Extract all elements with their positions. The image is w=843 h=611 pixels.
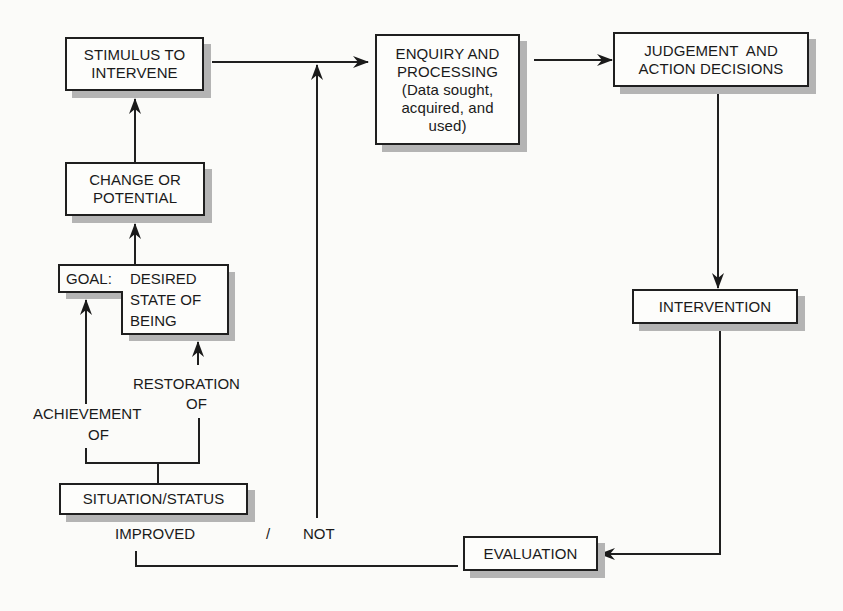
node-judgement-and-action-decisions: JUDGEMENT AND ACTION DECISIONS xyxy=(613,32,809,87)
node-label: ACTION DECISIONS xyxy=(639,60,784,78)
line-evaluation-to-improved xyxy=(136,551,458,566)
node-label: INTERVENTION xyxy=(659,298,772,316)
node-label: CHANGE OR xyxy=(89,171,181,189)
node-goal-desired-state: GOAL: DESIRED STATE OF BEING xyxy=(58,264,228,334)
edge-label-improved: IMPROVED xyxy=(115,525,195,543)
edge-label-restoration-of: OF xyxy=(186,395,207,413)
node-label: acquired, and xyxy=(401,99,493,117)
node-label: EVALUATION xyxy=(484,545,578,563)
node-label: ENQUIRY AND xyxy=(396,45,500,63)
node-label: (Data sought, xyxy=(402,81,493,99)
edge-label-not: NOT xyxy=(303,525,335,543)
node-label: PROCESSING xyxy=(397,63,498,81)
node-label: SITUATION/STATUS xyxy=(83,490,225,508)
node-label: POTENTIAL xyxy=(93,189,177,207)
node-stimulus-to-intervene: STIMULUS TO INTERVENE xyxy=(65,37,204,91)
edge-label-achievement: ACHIEVEMENT xyxy=(33,405,141,423)
edge-label-achievement-of: OF xyxy=(88,426,109,444)
node-label: JUDGEMENT AND xyxy=(644,42,778,60)
node-intervention: INTERVENTION xyxy=(632,289,798,324)
node-evaluation: EVALUATION xyxy=(463,536,598,571)
goal-prefix: GOAL: xyxy=(66,269,112,288)
node-label: DESIRED xyxy=(130,269,197,288)
node-situation-status: SITUATION/STATUS xyxy=(59,483,248,515)
edge-label-slash: / xyxy=(266,525,270,543)
node-enquiry-and-processing: ENQUIRY AND PROCESSING (Data sought, acq… xyxy=(375,34,520,145)
node-label: BEING xyxy=(130,311,177,330)
edge-label-restoration: RESTORATION xyxy=(133,375,240,393)
node-change-or-potential: CHANGE OR POTENTIAL xyxy=(65,162,205,216)
node-label: STIMULUS TO xyxy=(84,46,185,64)
node-label: STATE OF xyxy=(130,290,201,309)
node-label: used) xyxy=(428,117,466,135)
node-label: INTERVENE xyxy=(91,64,177,82)
arrow-intervention-to-evaluation xyxy=(600,324,720,554)
